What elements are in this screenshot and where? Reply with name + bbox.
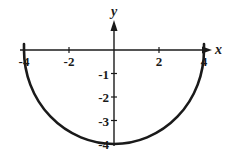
x-axis-label: x [214, 42, 222, 57]
y-axis-arrow-icon [111, 20, 118, 31]
axes [20, 20, 212, 146]
y-tick-label: -3 [98, 114, 109, 129]
x-tick-label: -2 [64, 54, 75, 69]
y-tick-label: -1 [98, 67, 109, 82]
y-axis-label: y [109, 4, 118, 19]
y-tick-label: -2 [98, 90, 109, 105]
semicircle-graph: -4-224-1-2-3-4 x y [0, 0, 240, 166]
x-tick-label: 2 [156, 54, 163, 69]
axis-ticks: -4-224-1-2-3-4 [19, 47, 208, 152]
